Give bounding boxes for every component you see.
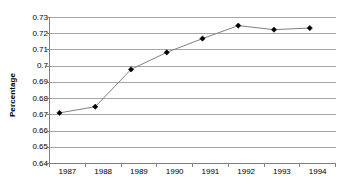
y-axis-ticks [46,18,50,164]
x-axis-ticks [50,164,336,168]
data-point [236,23,241,28]
gridlines [50,18,336,148]
data-point [271,27,276,32]
series-line-percentage [60,26,310,113]
data-point [200,36,205,41]
data-point [164,50,169,55]
data-point [307,25,312,30]
axis-lines [50,18,336,164]
line-chart: Percentage 0.730.720.710.70.690.680.670.… [0,0,349,189]
plot-area [0,0,349,189]
series-markers-percentage [57,23,312,115]
